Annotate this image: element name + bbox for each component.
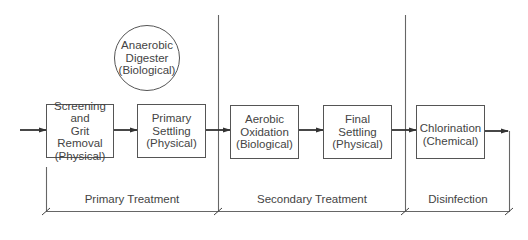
stage-label-disinfection: Disinfection [406,193,510,205]
unit-label: (Biological) [236,138,293,151]
unit-label: Primary [152,112,192,125]
unit-label: Settling [152,125,190,138]
unit-label: Grit Removal [47,125,113,150]
anaerobic-digester: Anaerobic Digester (Biological) [114,25,180,91]
unit-label: and [70,112,89,125]
unit-label: Oxidation [240,126,289,139]
unit-label: (Physical) [146,137,196,150]
unit-final-settling: Final Settling (Physical) [323,105,392,159]
digester-line-3: (Biological) [119,64,176,77]
digester-line-2: Digester [126,52,169,65]
stage-label-primary: Primary Treatment [46,193,218,205]
unit-label: (Physical) [55,150,105,163]
unit-label: (Physical) [332,138,382,151]
digester-line-1: Anaerobic [121,39,173,52]
unit-primary-settling: Primary Settling (Physical) [137,104,206,158]
unit-label: (Chemical) [423,135,479,148]
unit-label: Aerobic [245,113,284,126]
unit-label: Screening [54,100,106,113]
unit-label: Final [345,113,370,126]
unit-label: Chlorination [420,122,481,135]
unit-label: Settling [338,126,376,139]
stage-label-secondary: Secondary Treatment [219,193,405,205]
unit-chlorination: Chlorination (Chemical) [416,105,485,159]
unit-screening: Screening and Grit Removal (Physical) [46,104,114,158]
unit-aerobic-oxidation: Aerobic Oxidation (Biological) [230,105,299,159]
